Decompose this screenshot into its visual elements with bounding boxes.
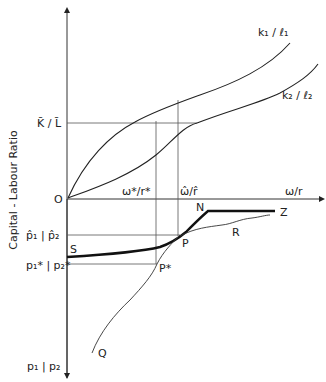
k1-l1-label: k₁ / ℓ₁ [258, 26, 288, 39]
point-s-label: S [70, 243, 77, 256]
hat-wage-rent-label: ω̂/r̂ [180, 185, 198, 198]
k1-l1-curve [68, 43, 290, 198]
point-z-label: Z [280, 206, 288, 219]
point-q-label: Q [98, 347, 107, 360]
k2-l2-label: k₂ / ℓ₂ [282, 89, 312, 102]
point-r-label: R [232, 226, 240, 239]
star-wage-rent-label: ω*/r* [122, 185, 151, 198]
k2-l2-curve [68, 64, 318, 198]
point-n-label: N [196, 201, 204, 214]
qp-curve [92, 235, 180, 353]
capital-labour-ratio-diagram: Capital - Labour Ratio k₁ / ℓ₁ k₂ / ℓ₂ K… [0, 0, 326, 382]
price-axis-label: p₁ | p₂ [27, 360, 60, 373]
star-price-label: p₁* | p₂* [26, 259, 71, 272]
y-axis-title: Capital - Labour Ratio [7, 130, 20, 250]
point-p-star-label: P* [159, 262, 172, 275]
origin-label: O [54, 193, 63, 206]
point-p-label: P [182, 237, 189, 250]
endowment-label: K̄ / L̄ [37, 117, 62, 130]
snz-curve [67, 211, 275, 257]
hat-price-label: p̂₁ | p̂₂ [26, 229, 59, 242]
x-axis-label: ω/r [285, 185, 303, 198]
